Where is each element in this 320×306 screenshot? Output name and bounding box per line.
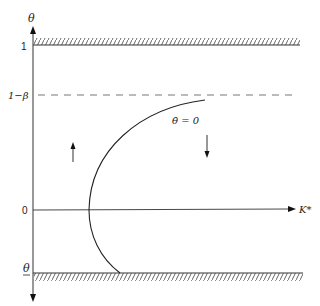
up-direction-arrow-icon: [71, 142, 76, 162]
y-axis-label: θ: [28, 12, 35, 25]
down-direction-arrow-icon: [205, 135, 210, 158]
tick-label-one: 1: [21, 41, 27, 52]
theta-axis: [30, 26, 36, 302]
axis-arrow-down-icon: [30, 294, 36, 302]
lower-bound-line: [33, 273, 303, 281]
tick-label-one-minus-beta: 1−β: [8, 90, 29, 101]
tick-label-theta-lower: θ: [23, 262, 30, 275]
x-axis-label: K*: [298, 204, 311, 215]
k-axis: [33, 206, 296, 212]
axis-arrow-right-icon: [288, 206, 296, 212]
phase-diagram: θ 1 1−β 0 θ K* θ̇ = 0: [0, 0, 320, 306]
svg-text:θ: θ: [23, 262, 30, 275]
tick-label-zero: 0: [22, 205, 28, 216]
upper-bound-line: [33, 38, 300, 45]
curve-label: θ̇ = 0: [172, 115, 200, 126]
axis-arrow-up-icon: [30, 26, 36, 34]
